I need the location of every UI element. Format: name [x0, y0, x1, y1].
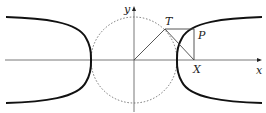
- x-axis-label: x: [256, 64, 263, 77]
- y-axis-label: y: [123, 3, 131, 16]
- y-axis-arrow: [132, 6, 136, 11]
- label-P: P: [197, 29, 206, 42]
- label-T: T: [165, 15, 174, 28]
- x-axis-arrow: [257, 58, 262, 62]
- label-X: X: [192, 63, 202, 76]
- tangent-TX: [165, 29, 194, 60]
- segment-OT: [134, 29, 165, 60]
- hyperbola-diagram: y x T P X: [0, 0, 266, 113]
